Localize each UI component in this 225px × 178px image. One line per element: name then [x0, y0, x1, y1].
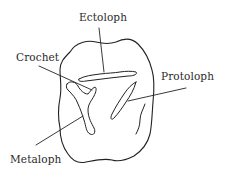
crochet-leader-line [39, 66, 92, 90]
tooth-outline [59, 39, 155, 162]
posterior-fold [136, 104, 145, 134]
tooth-diagram: Ectoloph Crochet Protoloph Metaloph [0, 0, 225, 178]
metaloph-leader-line [36, 116, 83, 145]
metaloph-label: Metaloph [10, 154, 61, 165]
ectoloph-label: Ectoloph [79, 12, 127, 23]
protoloph-leader-line [128, 88, 186, 101]
ectoloph-crest [78, 71, 136, 81]
ectoloph-leader-line [99, 28, 104, 72]
protoloph-label: Protoloph [161, 71, 214, 82]
tooth-diagram-svg [0, 0, 225, 178]
protoloph-crest [111, 82, 136, 119]
crochet-label: Crochet [16, 52, 59, 63]
